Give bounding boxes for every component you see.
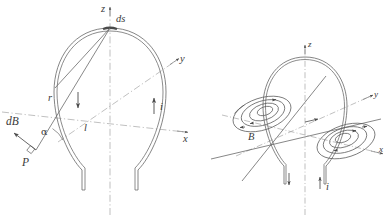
right-axis-label-x: x: [378, 144, 383, 154]
left-axis-label-x: x: [182, 133, 188, 144]
left-axis-label-y: y: [179, 53, 185, 64]
physics-figure: z y x ds r α dB P l i: [0, 0, 389, 219]
left-label-P: P: [21, 156, 29, 168]
left-chord-line: [55, 28, 110, 88]
right-x-axis: [222, 115, 383, 154]
left-label-alpha: α: [41, 126, 48, 137]
left-label-dB: dB: [6, 115, 19, 127]
figure-canvas: z y x ds r α dB P l i: [0, 0, 389, 219]
right-field-axis-line: [211, 76, 381, 181]
right-field-lines-right: [313, 117, 380, 166]
right-label-i: i: [326, 181, 329, 192]
left-dB-vector: [14, 133, 36, 154]
left-label-i: i: [160, 101, 163, 112]
left-axis-label-z: z: [100, 3, 105, 14]
right-axis-label-z: z: [307, 39, 312, 49]
right-panel: z y x B i: [211, 39, 383, 215]
right-center-arrow: [305, 119, 318, 122]
right-axis-label-y: y: [373, 89, 378, 99]
left-label-l: l: [84, 122, 87, 133]
left-panel: z y x ds r α dB P l i: [2, 3, 188, 215]
left-label-r: r: [48, 92, 53, 103]
right-label-B: B: [248, 131, 255, 142]
left-label-ds: ds: [116, 13, 125, 24]
right-field-lines-left: [229, 90, 296, 139]
